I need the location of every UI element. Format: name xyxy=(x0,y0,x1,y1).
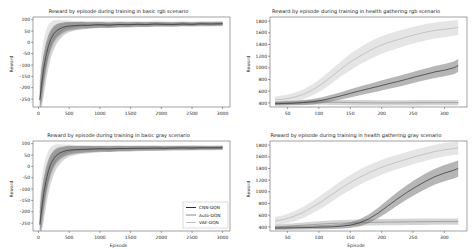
chart-basic-gray: Reward by episode during training in bas… xyxy=(0,124,237,249)
svg-text:-50: -50 xyxy=(23,51,30,56)
svg-text:400: 400 xyxy=(258,225,267,230)
svg-text:1600: 1600 xyxy=(256,154,268,159)
svg-text:0: 0 xyxy=(37,111,40,116)
svg-text:50: 50 xyxy=(285,235,291,240)
svg-text:600: 600 xyxy=(258,213,267,218)
plot-area-basic-gray: 100500-50-100-150-200-250050010001500200… xyxy=(0,138,237,248)
svg-text:0: 0 xyxy=(27,40,30,45)
x-axis-label: Episode xyxy=(0,243,237,248)
svg-text:1400: 1400 xyxy=(256,42,268,47)
chart-grid: Reward by episode during training in bas… xyxy=(0,0,475,249)
chart-title: Reward by episode during training in hea… xyxy=(237,124,475,138)
svg-text:0: 0 xyxy=(37,235,40,240)
svg-text:300: 300 xyxy=(440,111,449,116)
svg-text:250: 250 xyxy=(409,111,418,116)
svg-text:150: 150 xyxy=(346,111,355,116)
chart-title: Reward by episode during training in hea… xyxy=(237,0,475,14)
svg-text:-50: -50 xyxy=(23,175,30,180)
svg-text:100: 100 xyxy=(315,111,324,116)
svg-text:50: 50 xyxy=(285,111,291,116)
svg-text:250: 250 xyxy=(409,235,418,240)
svg-text:400: 400 xyxy=(258,101,267,106)
plot-area-health-rgb: 1800160014001200100080060040050100150200… xyxy=(237,14,474,124)
svg-text:-200: -200 xyxy=(20,209,30,214)
svg-text:Auto-DQN: Auto-DQN xyxy=(199,213,221,218)
chart-title: Reward by episode during training in bas… xyxy=(0,124,237,138)
svg-text:1500: 1500 xyxy=(125,111,137,116)
svg-text:-150: -150 xyxy=(20,198,30,203)
svg-text:1000: 1000 xyxy=(256,189,268,194)
svg-text:1200: 1200 xyxy=(256,54,268,59)
svg-text:50: 50 xyxy=(24,153,30,158)
svg-text:1000: 1000 xyxy=(256,65,268,70)
svg-text:300: 300 xyxy=(440,235,449,240)
svg-text:1000: 1000 xyxy=(94,111,106,116)
svg-text:500: 500 xyxy=(65,235,74,240)
svg-text:150: 150 xyxy=(346,235,355,240)
svg-text:1800: 1800 xyxy=(256,19,268,24)
svg-text:2500: 2500 xyxy=(186,235,198,240)
svg-text:1600: 1600 xyxy=(256,30,268,35)
plot-area-health-gray: 1800160014001200100080060040050100150200… xyxy=(237,138,474,248)
svg-text:-250: -250 xyxy=(20,97,30,102)
svg-text:-150: -150 xyxy=(20,74,30,79)
svg-text:200: 200 xyxy=(377,111,386,116)
svg-text:1400: 1400 xyxy=(256,166,268,171)
y-axis-label: Reward xyxy=(9,174,14,204)
svg-text:CNN-DQN: CNN-DQN xyxy=(199,205,220,210)
svg-text:50: 50 xyxy=(24,29,30,34)
reward-training-figure: Reward by episode during training in bas… xyxy=(0,0,475,249)
y-axis-label: Reward xyxy=(9,49,14,79)
svg-text:800: 800 xyxy=(258,201,267,206)
svg-text:2500: 2500 xyxy=(186,111,198,116)
svg-text:-250: -250 xyxy=(20,221,30,226)
plot-area-basic-rgb: 100500-50-100-150-200-250050010001500200… xyxy=(0,14,237,124)
svg-text:3000: 3000 xyxy=(217,235,229,240)
chart-health-rgb: Reward by episode during training in hea… xyxy=(237,0,475,124)
chart-title: Reward by episode during training in bas… xyxy=(0,0,237,14)
chart-health-gray: Reward by episode during training in hea… xyxy=(237,124,475,249)
svg-text:1200: 1200 xyxy=(256,178,268,183)
svg-text:-100: -100 xyxy=(20,187,30,192)
svg-text:100: 100 xyxy=(315,235,324,240)
svg-text:1000: 1000 xyxy=(94,235,106,240)
svg-text:2000: 2000 xyxy=(156,235,168,240)
svg-text:100: 100 xyxy=(21,141,30,146)
svg-text:1500: 1500 xyxy=(125,235,137,240)
y-axis-label: Reward xyxy=(246,49,251,79)
svg-text:3000: 3000 xyxy=(217,111,229,116)
svg-text:VAE-DQN: VAE-DQN xyxy=(199,220,219,225)
chart-basic-rgb: Reward by episode during training in bas… xyxy=(0,0,237,124)
svg-text:100: 100 xyxy=(21,17,30,22)
svg-text:600: 600 xyxy=(258,89,267,94)
x-axis-label: Episode xyxy=(237,243,475,248)
svg-text:-100: -100 xyxy=(20,63,30,68)
svg-text:2000: 2000 xyxy=(156,111,168,116)
svg-text:1800: 1800 xyxy=(256,143,268,148)
svg-text:500: 500 xyxy=(65,111,74,116)
svg-text:200: 200 xyxy=(377,235,386,240)
svg-text:-200: -200 xyxy=(20,85,30,90)
svg-text:0: 0 xyxy=(27,164,30,169)
y-axis-label: Reward xyxy=(246,174,251,204)
svg-text:800: 800 xyxy=(258,77,267,82)
